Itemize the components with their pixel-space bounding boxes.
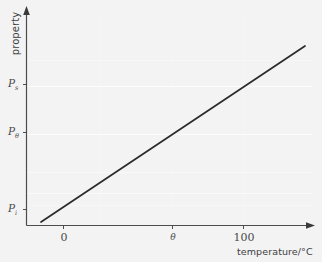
y-tick-label-pi: Pi xyxy=(8,202,17,217)
x-tick-label-0: 0 xyxy=(57,231,71,244)
y-axis-title: property xyxy=(10,4,21,64)
x-tick-label-100: 100 xyxy=(231,231,257,244)
plot-canvas xyxy=(0,0,322,262)
x-tick-label-theta: θ xyxy=(166,232,180,242)
chart-figure: property Ps Pθ Pi 0 θ 100 temperature/°C xyxy=(0,0,322,262)
y-tick-label-ptheta: Pθ xyxy=(8,125,19,140)
data-line-series-1 xyxy=(41,46,305,222)
x-axis xyxy=(27,222,316,229)
x-axis-title: temperature/°C xyxy=(237,246,313,257)
y-axis xyxy=(23,6,30,226)
y-tick-label-ps: Ps xyxy=(8,77,18,92)
